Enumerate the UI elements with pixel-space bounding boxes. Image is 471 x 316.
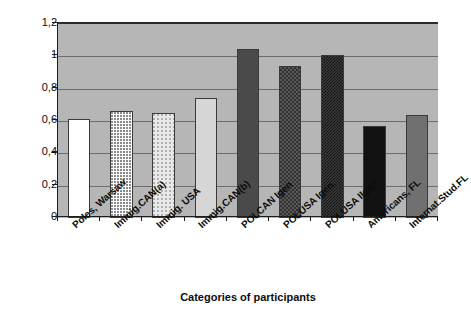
x-axis-tick-mark (310, 216, 311, 221)
x-axis-tick-mark (184, 216, 185, 221)
x-axis-tick-mark (268, 216, 269, 221)
x-axis-tick-mark (141, 216, 142, 221)
bar (110, 111, 132, 219)
y-axis-tick-mark (52, 87, 57, 88)
y-axis: 1,210,80,60,40,20 (0, 0, 57, 316)
y-axis-tick-label: 0,4 (11, 146, 57, 157)
y-axis-line (57, 22, 58, 217)
x-axis-title: Categories of participants (0, 291, 460, 303)
bar (406, 115, 428, 218)
y-axis-tick-label: 0,6 (11, 114, 57, 125)
y-axis-tick-mark (52, 119, 57, 120)
y-axis-tick-label: 0 (11, 211, 57, 222)
y-axis-tick-label: 0,2 (11, 178, 57, 189)
bar (152, 113, 174, 218)
y-axis-tick-label: 1,2 (11, 17, 57, 28)
y-axis-tick-mark (52, 54, 57, 55)
bar (68, 119, 90, 218)
y-axis-tick-mark (52, 184, 57, 185)
x-axis-tick-mark (353, 216, 354, 221)
y-axis-tick-label: 1 (11, 49, 57, 60)
x-axis-tick-mark (437, 216, 438, 221)
x-axis-tick-mark (57, 216, 58, 221)
x-axis-tick-mark (99, 216, 100, 221)
x-axis-tick-mark (226, 216, 227, 221)
y-axis-tick-mark (52, 151, 57, 152)
bar (195, 98, 217, 218)
y-axis-tick-label: 0,8 (11, 81, 57, 92)
y-axis-tick-mark (52, 22, 57, 23)
bar (363, 126, 385, 218)
x-axis-tick-mark (395, 216, 396, 221)
